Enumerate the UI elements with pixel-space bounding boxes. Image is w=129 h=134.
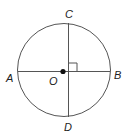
- label-o: O: [49, 75, 58, 87]
- label-c: C: [65, 8, 73, 20]
- label-b: B: [114, 69, 121, 81]
- center-point-o: [60, 69, 65, 74]
- label-d: D: [64, 121, 72, 133]
- right-angle-marker: [69, 63, 78, 72]
- circle-diagram: C D A B O: [0, 0, 129, 134]
- label-a: A: [5, 72, 13, 84]
